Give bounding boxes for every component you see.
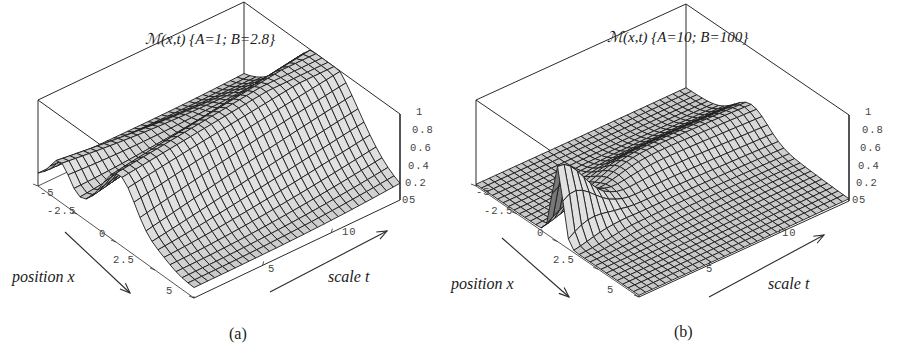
- t-tick: 5: [859, 194, 866, 206]
- x-tick: 0: [537, 227, 544, 239]
- z-tick: 0.8: [412, 124, 434, 136]
- z-tick: 1: [416, 106, 423, 118]
- z-tick: 1: [865, 106, 872, 118]
- z-tick: 0.4: [408, 160, 430, 172]
- x-tick: -2.5: [484, 205, 513, 217]
- z-tick: 0.4: [858, 160, 880, 172]
- t-tick: 10: [782, 227, 797, 239]
- x-tick: 2.5: [553, 254, 575, 266]
- z-tick: 0.6: [410, 142, 432, 154]
- surface-plot-a: [0, 0, 450, 357]
- figure-panel-a: ℳ(x,t) {A=1; B=2.8} 1 0.8 0.6 0.4 0.2 0 …: [0, 0, 450, 357]
- z-tick: 0.6: [860, 142, 882, 154]
- t-axis-label: scale t: [328, 268, 369, 286]
- t-axis-label: scale t: [768, 275, 809, 293]
- x-tick: -5: [476, 186, 491, 198]
- x-axis-label: position x: [451, 275, 514, 293]
- t-tick: 5: [409, 194, 416, 206]
- t-tick: 10: [342, 226, 357, 238]
- z-tick: 0.8: [862, 124, 884, 136]
- panel-a-caption: (a): [229, 325, 247, 343]
- z-tick: 0.2: [405, 177, 427, 189]
- t-tick: 5: [268, 263, 275, 275]
- x-tick: 5: [607, 284, 614, 296]
- x-tick: 5: [166, 285, 173, 297]
- figure-panel-b: ℳ(x,t) {A=10; B=100} 1 0.8 0.6 0.4 0.2 0…: [449, 0, 899, 357]
- x-tick: -2.5: [47, 205, 76, 217]
- x-axis-label: position x: [12, 268, 75, 286]
- x-tick: 0: [99, 228, 106, 240]
- z-tick: 0.2: [856, 177, 878, 189]
- x-tick: -5: [40, 187, 55, 199]
- t-tick: 5: [706, 263, 713, 275]
- x-tick: 2.5: [113, 254, 135, 266]
- surface-plot-b: [449, 0, 899, 357]
- panel-b-caption: (b): [674, 323, 693, 341]
